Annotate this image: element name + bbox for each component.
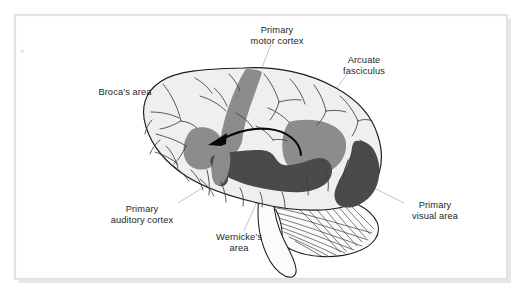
label-arcuate-fasciculus-line1: Arcuate [348,55,381,65]
brain-diagram-figure: Primary motor cortex Arcuate fasciculus … [0,0,522,303]
label-brocas-area-line1: Broca’s area [98,87,152,97]
label-arcuate-fasciculus: Arcuate fasciculus [343,55,385,76]
label-wernickes-area-line2: area [229,243,249,253]
label-primary-auditory-cortex-line2: auditory cortex [111,215,174,225]
label-primary-visual-area-line1: Primary [419,200,452,210]
label-primary-visual-area-line2: visual area [412,211,459,221]
label-primary-auditory-cortex-line1: Primary [126,204,159,214]
brain-diagram-canvas: Primary motor cortex Arcuate fasciculus … [0,0,522,303]
label-arcuate-fasciculus-line2: fasciculus [343,66,385,76]
label-brocas-area: Broca’s area [98,87,152,97]
label-wernickes-area-line1: Wernicke’s [216,232,262,242]
label-primary-motor-cortex-line1: Primary [261,25,294,35]
label-primary-motor-cortex-line2: motor cortex [251,36,304,46]
paper-speck [21,50,24,53]
